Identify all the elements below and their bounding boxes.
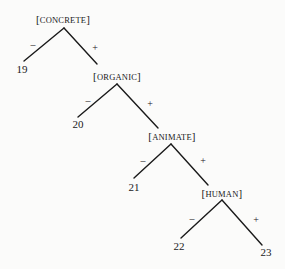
leaf-21: 21 [129,181,140,193]
node-label-human: [HUMAN] [202,187,243,199]
leaf-20: 20 [73,118,85,130]
minus-sign: – [140,155,147,166]
edge-organic-minus [78,84,117,117]
minus-sign: – [30,39,37,50]
plus-sign: + [200,155,206,166]
node-organic: [ORGANIC] – + [78,70,158,128]
plus-sign: + [147,98,153,109]
leaf-19: 19 [17,63,29,75]
plus-sign: + [92,42,98,53]
plus-sign: + [253,214,259,225]
node-human: [HUMAN] – + [181,187,262,245]
minus-sign: – [85,95,92,106]
minus-sign: – [189,213,196,224]
node-concrete: [CONCRETE] – + [24,13,98,64]
leaf-22: 22 [174,240,185,252]
edge-human-minus [181,200,222,238]
node-label-animate: [ANIMATE] [148,130,195,142]
node-animate: [ANIMATE] – + [134,130,208,185]
feature-tree-diagram: [CONCRETE] – + 19 [ORGANIC] – + 20 [ANIM… [0,0,285,269]
node-label-concrete: [CONCRETE] [36,13,90,25]
leaf-23: 23 [261,246,273,258]
node-label-organic: [ORGANIC] [93,70,141,82]
